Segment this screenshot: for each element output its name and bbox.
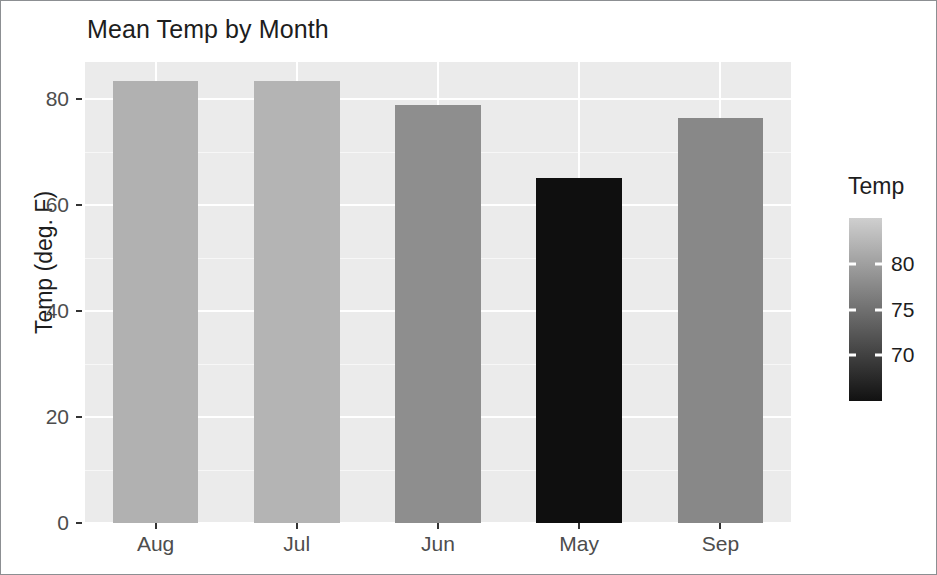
legend-colorbar-wrap [849,218,882,401]
legend-tick-mark [875,354,882,357]
y-axis-tick-mark [76,310,82,312]
legend-tick-label: 80 [891,252,914,276]
chart-surface: Mean Temp by Month Temp (deg. F) 8060402… [1,1,937,575]
plot-window-frame: Mean Temp by Month Temp (deg. F) 8060402… [0,0,937,575]
y-axis-tick-label: 0 [9,511,69,535]
bar-jun[interactable] [395,105,480,523]
y-axis-tick-mark [76,98,82,100]
x-axis-tick-mark [296,523,298,529]
y-axis-tick-label: 80 [9,87,69,111]
legend-tick-mark [849,308,856,311]
bar-aug[interactable] [113,81,198,523]
y-axis-tick-label: 40 [9,299,69,323]
legend-tick-label: 70 [891,343,914,367]
plot-panel [85,62,791,523]
x-axis-tick-mark [719,523,721,529]
x-axis-tick-label: Sep [702,532,739,556]
page-title: Mean Temp by Month [87,15,329,44]
x-axis-tick-mark [578,523,580,529]
x-axis: AugJulJunMaySep [85,523,791,575]
legend-tick-mark [849,354,856,357]
legend-tick-label: 75 [891,298,914,322]
y-axis-tick-mark [76,522,82,524]
x-axis-tick-mark [155,523,157,529]
x-axis-tick-mark [437,523,439,529]
legend-tick-mark [849,262,856,265]
x-axis-tick-label: Aug [137,532,174,556]
legend-tick-mark [875,308,882,311]
y-axis-tick-labels: 806040200 [11,1,69,575]
y-axis-tick-label: 60 [9,193,69,217]
legend-title: Temp [848,173,904,200]
x-axis-tick-label: May [559,532,599,556]
y-axis-tick-mark [76,204,82,206]
bar-sep[interactable] [678,118,763,523]
bar-may[interactable] [536,178,621,523]
legend-tick-mark [875,262,882,265]
y-axis-tick-mark [76,416,82,418]
x-axis-tick-label: Jul [283,532,310,556]
legend: Temp 807570 [807,173,932,413]
bar-jul[interactable] [254,81,339,523]
y-axis-tick-label: 20 [9,405,69,429]
x-axis-tick-label: Jun [421,532,455,556]
